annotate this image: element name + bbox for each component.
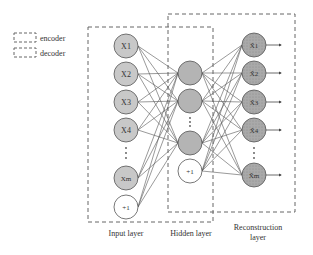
decoder-connections	[202, 45, 242, 175]
input-node-label: X1	[121, 42, 131, 51]
input-layer: X1 X2 X3 X4 Xm +1	[114, 34, 138, 219]
legend: encoder decoder	[14, 33, 66, 58]
encoder-legend-swatch	[14, 33, 36, 42]
output-arrows	[266, 45, 281, 175]
hidden-layer: +1	[178, 61, 202, 183]
encoder-box	[88, 27, 213, 222]
reconstruction-layer-label-line2: layer	[250, 233, 266, 242]
output-node-label: X̂m	[249, 172, 260, 180]
input-layer-label: Input layer	[109, 229, 144, 238]
hidden-bias-label: +1	[186, 168, 194, 176]
decoder-legend-swatch	[14, 48, 36, 57]
input-node-label: X4	[121, 126, 131, 135]
hidden-node	[178, 61, 202, 85]
input-bias-label: +1	[122, 204, 130, 212]
reconstruction-layer: X̂1 X̂2 X̂3 X̂4 X̂m	[242, 33, 281, 187]
output-node-label: X̂1	[250, 42, 259, 50]
hidden-node	[178, 131, 202, 155]
autoencoder-diagram: encoder decoder X1 X2 X3 X4 Xm +1	[0, 0, 313, 255]
legend-encoder-label: encoder	[40, 34, 66, 43]
output-node-label: X̂2	[250, 70, 259, 78]
input-node-label: Xm	[121, 175, 132, 183]
reconstruction-layer-label-line1: Reconstruction	[234, 223, 282, 232]
input-node-label: X2	[121, 70, 131, 79]
output-ellipsis	[253, 147, 255, 159]
hidden-ellipsis	[189, 117, 191, 127]
output-node-label: X̂3	[250, 99, 259, 107]
input-ellipsis	[125, 147, 127, 159]
input-node-label: X3	[121, 98, 131, 107]
hidden-layer-label: Hidden layer	[170, 229, 212, 238]
output-node-label: X̂4	[250, 127, 259, 135]
encoder-connections	[138, 46, 178, 207]
legend-decoder-label: decoder	[40, 49, 66, 58]
hidden-node	[178, 89, 202, 113]
